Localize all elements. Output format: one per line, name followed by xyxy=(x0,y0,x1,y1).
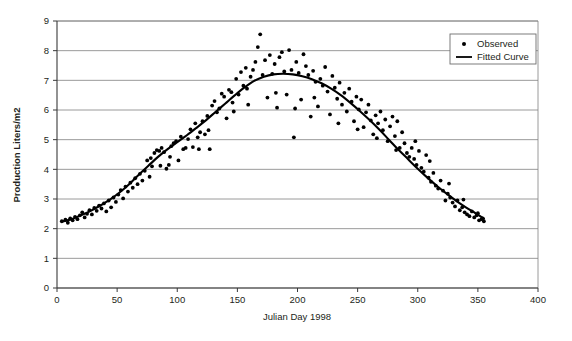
data-point xyxy=(304,64,308,68)
data-point xyxy=(413,139,417,143)
data-point xyxy=(330,74,334,78)
data-point xyxy=(85,212,89,216)
data-point xyxy=(165,167,169,171)
data-point xyxy=(388,124,392,128)
data-point xyxy=(326,90,330,94)
data-point xyxy=(456,199,460,203)
data-point xyxy=(102,202,106,206)
data-point xyxy=(412,157,416,161)
data-point xyxy=(468,214,472,218)
data-point xyxy=(444,199,448,203)
data-point xyxy=(237,93,241,97)
data-point xyxy=(338,81,342,85)
data-point xyxy=(66,221,70,225)
data-point xyxy=(359,98,363,102)
y-tick-label: 8 xyxy=(44,45,49,56)
data-point xyxy=(350,100,354,104)
data-point xyxy=(157,149,161,153)
data-point xyxy=(419,166,423,170)
data-point xyxy=(381,128,385,132)
x-tick-label: 400 xyxy=(530,294,546,305)
data-point xyxy=(400,130,404,134)
data-point xyxy=(150,164,154,168)
y-tick-label: 7 xyxy=(44,75,49,86)
data-point xyxy=(299,98,303,102)
data-point xyxy=(229,90,233,94)
legend-label: Fitted Curve xyxy=(477,51,529,62)
data-point xyxy=(104,210,108,214)
data-point xyxy=(231,101,235,105)
data-point xyxy=(189,127,193,131)
y-tick-label: 0 xyxy=(44,282,49,293)
data-point xyxy=(294,60,298,64)
data-point xyxy=(395,119,399,123)
data-point xyxy=(76,217,80,221)
data-point xyxy=(429,180,433,184)
data-point xyxy=(186,137,190,141)
data-point xyxy=(369,118,373,122)
data-point xyxy=(287,48,291,52)
data-point xyxy=(234,77,238,81)
data-point xyxy=(256,45,260,49)
data-point xyxy=(126,190,130,194)
data-point xyxy=(292,135,296,139)
data-point xyxy=(177,159,181,163)
data-point xyxy=(290,68,294,72)
chart-legend: ObservedFitted Curve xyxy=(450,34,536,64)
data-point xyxy=(232,110,236,114)
data-point xyxy=(297,71,301,75)
x-tick-label: 250 xyxy=(350,294,366,305)
data-point xyxy=(239,70,243,74)
data-point xyxy=(71,218,75,222)
data-point xyxy=(340,103,344,107)
data-point xyxy=(302,52,306,56)
y-tick-label: 5 xyxy=(44,134,49,145)
legend-marker-dot xyxy=(462,42,466,46)
data-point xyxy=(321,84,325,88)
x-tick-label: 300 xyxy=(410,294,426,305)
data-point xyxy=(391,115,395,119)
data-point xyxy=(458,208,462,212)
x-tick-label: 0 xyxy=(54,294,59,305)
data-point xyxy=(149,156,153,160)
data-point xyxy=(347,87,351,91)
data-point xyxy=(249,75,253,79)
data-point xyxy=(97,204,101,208)
data-point xyxy=(136,182,140,186)
data-point xyxy=(481,216,485,220)
data-point xyxy=(453,205,457,209)
y-tick-label: 6 xyxy=(44,104,49,115)
data-point xyxy=(138,172,142,176)
data-point xyxy=(345,110,349,114)
data-point xyxy=(128,181,132,185)
production-scatter-chart: 0123456789 050100150200250300350400 Obse… xyxy=(0,0,572,341)
data-point xyxy=(441,189,445,193)
data-point xyxy=(100,207,104,211)
data-point xyxy=(335,97,339,101)
data-point xyxy=(217,107,221,111)
data-point xyxy=(246,103,250,107)
data-point xyxy=(119,188,123,192)
data-point xyxy=(131,186,135,190)
data-point xyxy=(375,136,379,140)
data-point xyxy=(140,179,144,183)
data-point xyxy=(251,68,255,72)
data-point xyxy=(323,65,327,69)
data-point xyxy=(352,119,356,123)
data-point xyxy=(124,185,128,189)
y-axis-label: Production Liters/m2 xyxy=(11,107,22,202)
data-point xyxy=(64,218,68,222)
data-point xyxy=(316,105,320,109)
data-point xyxy=(273,62,277,66)
data-point xyxy=(207,128,211,132)
data-point xyxy=(314,80,318,84)
data-point xyxy=(403,141,407,145)
data-point xyxy=(222,95,226,99)
data-point xyxy=(417,149,421,153)
data-point xyxy=(448,196,452,200)
data-point xyxy=(109,205,113,209)
x-tick-label: 350 xyxy=(470,294,486,305)
data-point xyxy=(318,77,322,81)
data-point xyxy=(193,121,197,125)
data-point xyxy=(476,211,480,215)
